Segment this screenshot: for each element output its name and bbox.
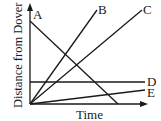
label-e: E (147, 85, 155, 100)
label-c: C (143, 2, 152, 17)
distance-time-chart: A B C D E Time Distance from Dover (0, 0, 161, 121)
x-axis-arrow-icon (140, 101, 148, 107)
label-a: A (33, 7, 43, 22)
line-a (30, 21, 118, 104)
line-c (30, 10, 142, 104)
x-axis-label: Time (76, 107, 103, 121)
label-b: B (98, 2, 107, 17)
line-e (30, 90, 145, 104)
y-axis-label: Distance from Dover (11, 2, 25, 108)
